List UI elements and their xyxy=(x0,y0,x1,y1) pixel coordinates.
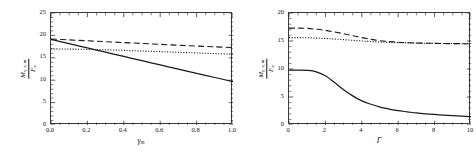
y-tick-label: 20 xyxy=(262,9,284,16)
x-axis-label-subscript-left: m xyxy=(141,139,145,145)
x-tick-label: 0.8 xyxy=(183,127,209,134)
y-tick-label: 15 xyxy=(262,37,284,44)
y-axis-denominator-left: Fa xyxy=(30,59,38,79)
x-axis-label-right: Γ xyxy=(349,137,409,145)
x-tick-label: 4 xyxy=(348,127,374,134)
x-tick-label: 10 xyxy=(457,127,476,134)
x-tick-label: 6 xyxy=(384,127,410,134)
y-tick-label: 25 xyxy=(24,9,46,16)
plot-curves-right xyxy=(289,13,471,125)
y-tick-label: 20 xyxy=(24,31,46,38)
y-axis-denominator-subscript-left: a xyxy=(32,66,37,68)
x-tick-label: 0.6 xyxy=(146,127,172,134)
x-tick-label: 0.0 xyxy=(37,127,63,134)
x-tick-label: 8 xyxy=(421,127,447,134)
plot-frame-left xyxy=(50,12,232,124)
x-axis-label-base-right: Γ xyxy=(377,136,382,145)
x-tick-label: 0.2 xyxy=(73,127,99,134)
y-tick-label: 5 xyxy=(24,98,46,105)
y-tick-label: 5 xyxy=(262,93,284,100)
y-axis-numerator-subscript-left: x, a, m xyxy=(22,60,27,73)
y-axis-label-right: My, a, m Fa xyxy=(258,54,275,84)
y-axis-denominator-right: Fa xyxy=(268,59,276,79)
x-tick-label: 2 xyxy=(311,127,337,134)
plot-curves-left xyxy=(51,13,233,125)
x-axis-label-left: γm xyxy=(111,137,171,145)
y-axis-numerator-subscript-right: y, a, m xyxy=(260,60,265,72)
y-axis-numerator-left: Mx, a, m xyxy=(20,59,29,79)
y-axis-label-left: Mx, a, m Fa xyxy=(20,54,37,84)
two-panel-figure: 05101520250.00.20.40.60.81.0 Mx, a, m Fa… xyxy=(0,0,476,156)
chart-panel-right: 051015200246810 My, a, m Fa Γ xyxy=(238,0,476,156)
x-tick-label: 0 xyxy=(275,127,301,134)
y-axis-numerator-right: My, a, m xyxy=(258,59,267,79)
y-axis-denominator-subscript-right: a xyxy=(270,66,275,68)
x-tick-label: 0.4 xyxy=(110,127,136,134)
plot-frame-right xyxy=(288,12,470,124)
chart-panel-left: 05101520250.00.20.40.60.81.0 Mx, a, m Fa… xyxy=(0,0,238,156)
